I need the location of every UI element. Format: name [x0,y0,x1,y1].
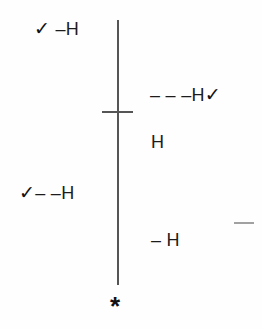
checkmark-icon: ✓ [34,18,50,39]
faint-dash-mark [234,222,254,224]
label-bottom-right-text: – H [151,230,180,250]
label-top-left: ✓ –H [34,20,79,38]
label-mid-right-text: H [151,132,164,152]
checkmark-icon: ✓ [205,84,221,105]
label-top-left-text: –H [50,19,79,39]
horizontal-crossbar [102,111,133,113]
label-top-right: – – –H✓ [150,86,221,104]
diagram-canvas: ✓ –H – – –H✓ H ✓– –H – H * [0,0,262,329]
label-mid-right: H [151,133,164,151]
vertical-axis-line [117,20,119,285]
label-bottom-right: – H [151,231,180,249]
label-top-right-text: – – –H [150,85,205,105]
checkmark-icon: ✓ [19,182,35,203]
label-mid-left: ✓– –H [19,184,74,202]
asterisk-icon: * [110,296,120,316]
label-mid-left-text: – –H [35,183,74,203]
